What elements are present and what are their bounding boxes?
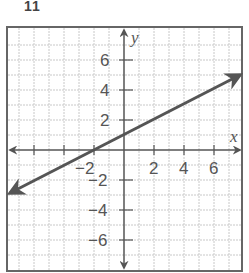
x-tick-label-6: 6 (209, 159, 218, 178)
y-tick-label-6: 6 (100, 51, 109, 70)
y-tick-label-4: 4 (100, 81, 109, 100)
y-tick-label-neg2: −2 (88, 171, 107, 190)
y-tick-label-2: 2 (100, 111, 109, 130)
y-axis-label: y (129, 28, 139, 47)
y-tick-label-neg4: −4 (88, 201, 107, 220)
y-tick-label-neg6: −6 (88, 231, 107, 250)
x-tick-label-2: 2 (149, 159, 158, 178)
plotted-line (10, 75, 240, 193)
x-axis-label: x (229, 127, 238, 146)
x-tick-label-4: 4 (179, 159, 188, 178)
coordinate-graph: −2 2 4 6 6 4 2 −2 −4 −6 x y (0, 0, 249, 273)
